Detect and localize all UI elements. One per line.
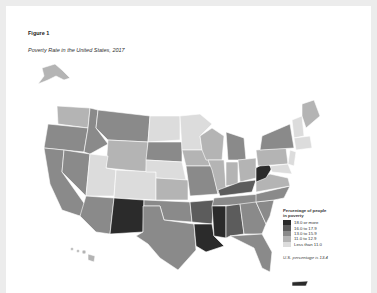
state-oregon: [44, 124, 88, 152]
state-mid-atlantic: [270, 164, 292, 174]
map-legend: Percentage of people in poverty 18.0 or …: [283, 208, 363, 247]
state-kansas: [156, 178, 188, 200]
state-north-dakota: [148, 116, 180, 142]
state-maine: [302, 100, 320, 128]
state-new-jersey: [288, 150, 296, 166]
state-south-dakota: [146, 142, 182, 162]
legend-item: Less than 11.0: [283, 242, 363, 247]
state-new-york: [260, 124, 294, 150]
state-new-mexico: [110, 198, 144, 234]
state-pennsylvania: [256, 148, 288, 166]
state-colorado: [114, 170, 156, 200]
state-mississippi: [212, 206, 226, 238]
territory-puerto-rico: [292, 281, 308, 286]
us-poverty-map: [0, 0, 377, 293]
state-alaska: [38, 64, 70, 84]
state-florida: [230, 234, 272, 272]
state-ohio: [238, 158, 256, 182]
state-vermont-nh: [292, 116, 304, 138]
state-mass-ct-ri: [294, 136, 312, 150]
state-arizona: [80, 196, 114, 234]
state-michigan: [226, 132, 246, 160]
state-indiana: [226, 162, 238, 186]
state-arkansas: [190, 200, 214, 224]
state-hawaii: [71, 248, 74, 251]
state-montana: [96, 110, 150, 142]
state-washington: [57, 106, 90, 128]
legend-title: Percentage of people in poverty: [283, 208, 363, 218]
legend-swatch: [283, 242, 291, 247]
us-percentage-note: U.S. percentage is 13.4: [283, 255, 328, 260]
state-wyoming: [106, 140, 148, 172]
